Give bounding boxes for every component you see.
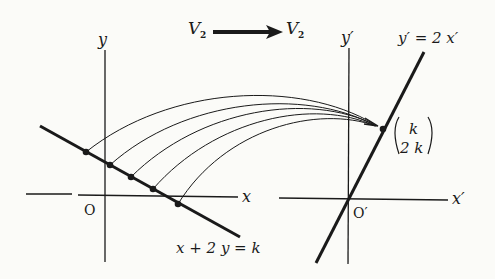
domain-space-subscript: 2 — [200, 30, 206, 40]
level-line-equation: x + 2 y = k — [176, 239, 261, 257]
right-y-axis-label: y′ — [340, 28, 354, 47]
curve-5 — [178, 119, 376, 204]
image-point — [380, 126, 387, 133]
right-origin-label: O′ — [353, 205, 368, 221]
left-y-axis-label: y — [97, 30, 108, 49]
right-x-axis-label: x′ — [452, 189, 465, 208]
left-x-axis-main — [78, 195, 238, 197]
image-line — [316, 52, 424, 263]
curve-1 — [86, 95, 374, 152]
image-point-component-1: k — [409, 120, 418, 138]
mapping-header: V 2 V 2 — [188, 18, 304, 40]
image-line-equation: y′ = 2 x′ — [397, 29, 459, 47]
codomain-space-subscript: 2 — [298, 30, 304, 40]
image-point-component-2: 2 k — [399, 139, 423, 157]
left-x-axis-label: x — [242, 187, 251, 206]
mapping-curves — [86, 95, 378, 204]
linear-map-diagram: V 2 V 2 y x O x + 2 y = k — [0, 0, 495, 279]
right-y-axis — [348, 48, 349, 264]
image-point-vector: k 2 k — [395, 117, 432, 157]
right-plane: y′ x′ O′ y′ = 2 x′ k 2 k — [279, 28, 465, 264]
curve-2 — [110, 104, 374, 165]
curve-4 — [153, 114, 375, 189]
left-origin-label: O — [84, 202, 95, 218]
left-plane: y x O x + 2 y = k — [26, 30, 261, 262]
mapping-arrow-icon — [213, 25, 283, 39]
right-x-axis — [279, 198, 448, 200]
